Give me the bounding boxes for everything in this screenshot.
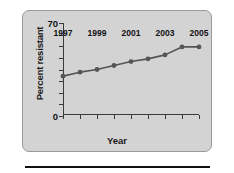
- data-point: [146, 56, 151, 61]
- y-axis-tick-label: 0: [53, 111, 58, 122]
- series-markers: [61, 45, 202, 79]
- data-point: [129, 59, 134, 64]
- data-point: [112, 63, 117, 68]
- bottom-divider: [25, 166, 210, 168]
- data-point: [78, 70, 83, 75]
- data-point: [95, 67, 100, 72]
- data-point: [163, 52, 168, 57]
- data-point: [197, 45, 202, 50]
- x-axis-title: Year: [23, 135, 211, 146]
- figure-panel: Percent resistant 070 199719992001200320…: [22, 10, 212, 152]
- data-point: [61, 74, 66, 79]
- line-series: [63, 23, 199, 116]
- y-axis-title: Percent resistant: [34, 17, 45, 111]
- data-point: [180, 45, 185, 50]
- x-axis-tick: [199, 115, 200, 119]
- plot-area: 070 19971999200120032005: [63, 23, 198, 115]
- y-axis-tick-label: 70: [47, 18, 58, 29]
